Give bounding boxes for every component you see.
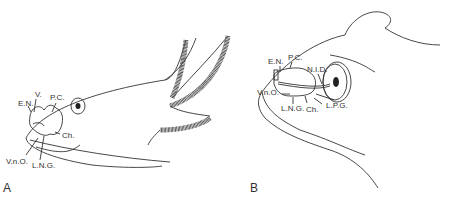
label-b-pc: P.C. — [288, 53, 303, 62]
label-a-ch: Ch. — [62, 131, 74, 140]
label-a-en: E.N. — [18, 99, 34, 108]
label-a-v: V. — [35, 90, 42, 99]
figure-canvas: E.N. V. P.C. V.n.O. L.N.G. Ch. A E.N. P.… — [0, 0, 461, 198]
panel-label-b: B — [250, 181, 258, 195]
label-a-lng: L.N.G. — [32, 161, 55, 170]
label-a-vno: V.n.O. — [6, 157, 28, 166]
panel-label-a: A — [3, 181, 11, 195]
label-b-nid: N.I.D. — [307, 65, 327, 74]
panel-b-drawing — [258, 12, 440, 188]
label-a-pc: P.C. — [50, 93, 65, 102]
label-b-vno: V.n.O. — [257, 88, 279, 97]
label-b-lng: L.N.G. — [281, 104, 304, 113]
label-b-lpg: L.P.G. — [326, 101, 348, 110]
label-b-ch: Ch. — [306, 105, 318, 114]
label-b-en: E.N. — [268, 57, 284, 66]
